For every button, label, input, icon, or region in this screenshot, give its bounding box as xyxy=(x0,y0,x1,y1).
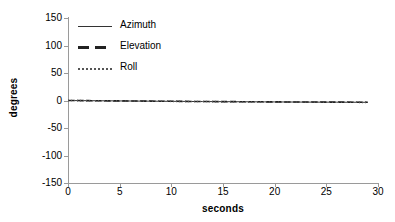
legend-sample-stroke xyxy=(78,46,112,49)
legend-line-sample-dashed xyxy=(78,46,112,49)
chart-legend: AzimuthElevationRoll xyxy=(78,16,248,79)
y-tick-label: 150 xyxy=(20,12,62,23)
y-axis-title: degrees xyxy=(8,63,19,133)
y-tick-label: 50 xyxy=(20,67,62,78)
legend-sample-stroke xyxy=(78,68,112,70)
y-tick-label: -100 xyxy=(20,150,62,161)
legend-line-sample-dotted xyxy=(78,67,112,70)
legend-sample-stroke xyxy=(78,26,112,27)
x-tick-label: 5 xyxy=(105,186,135,197)
y-tick-label: 0 xyxy=(20,95,62,106)
legend-label: Roll xyxy=(120,61,137,72)
legend-item-azimuth[interactable]: Azimuth xyxy=(78,16,248,37)
x-tick-label: 25 xyxy=(311,186,341,197)
y-tick-label: -50 xyxy=(20,122,62,133)
legend-line-sample-solid xyxy=(78,25,112,28)
x-tick-label: 0 xyxy=(53,186,83,197)
x-tick-label: 15 xyxy=(208,186,238,197)
legend-item-elevation[interactable]: Elevation xyxy=(78,37,248,58)
x-tick-label: 10 xyxy=(156,186,186,197)
x-tick-label: 20 xyxy=(260,186,290,197)
legend-label: Azimuth xyxy=(120,19,156,30)
x-axis-title: seconds xyxy=(202,203,244,214)
legend-label: Elevation xyxy=(120,40,161,51)
legend-item-roll[interactable]: Roll xyxy=(78,58,248,79)
x-tick-label: 30 xyxy=(363,186,393,197)
x-axis-title-wrapper: seconds xyxy=(68,198,378,216)
chart-container: degrees 150100500-50-100-150 05101520253… xyxy=(0,0,395,222)
y-tick-label: 100 xyxy=(20,40,62,51)
